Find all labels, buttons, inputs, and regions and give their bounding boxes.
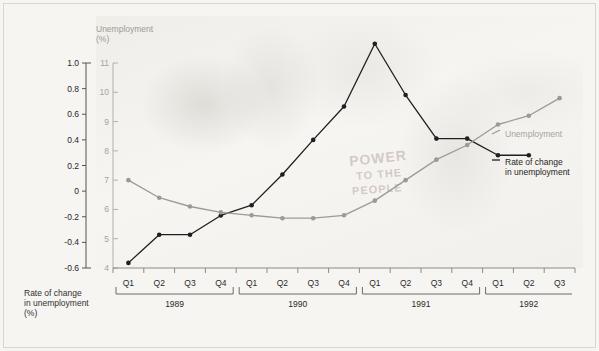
- x-axis-year-label: 1991: [412, 299, 431, 309]
- data-point: [280, 216, 285, 221]
- x-axis-quarter-label: Q3: [431, 278, 443, 288]
- x-axis-quarter-label: Q2: [154, 278, 166, 288]
- data-point: [496, 122, 501, 127]
- x-axis-quarter-label: Q1: [369, 278, 381, 288]
- data-point: [188, 204, 193, 209]
- x-axis-quarter-label: Q4: [462, 278, 474, 288]
- data-point: [219, 210, 224, 215]
- data-point: [157, 195, 162, 200]
- data-point: [249, 213, 254, 218]
- data-point: [434, 157, 439, 162]
- data-point: [496, 153, 501, 158]
- left-axis-tick-label: 0.8: [67, 84, 79, 94]
- data-point: [126, 178, 131, 183]
- left-axis-tick-label: 0.6: [67, 109, 79, 119]
- right-axis-tick-label: 11: [100, 58, 109, 68]
- series-line-rate-of-change: [128, 44, 528, 263]
- x-axis-quarter-label: Q2: [277, 278, 289, 288]
- right-axis-tick-label: 5: [104, 234, 109, 244]
- data-point: [157, 232, 162, 237]
- data-point: [403, 93, 408, 98]
- legend-label-rate-of-change: Rate of change in unemployment: [505, 157, 570, 177]
- data-point: [527, 113, 532, 118]
- data-point: [188, 232, 193, 237]
- x-axis-year-label: 1990: [288, 299, 307, 309]
- data-point: [280, 172, 285, 177]
- data-point: [434, 136, 439, 141]
- right-axis-tick-label: 4: [104, 263, 109, 273]
- x-axis-quarter-label: Q3: [308, 278, 320, 288]
- data-point: [311, 138, 316, 143]
- data-point: [342, 213, 347, 218]
- x-axis-quarter-label: Q2: [523, 278, 535, 288]
- legend-swatch-unemployment: [492, 130, 500, 134]
- right-axis-tick-label: 9: [104, 117, 109, 127]
- left-axis-tick-label: -0.4: [64, 237, 79, 247]
- right-axis-tick-label: 10: [100, 87, 110, 97]
- data-point: [465, 143, 470, 148]
- left-axis-tick-label: -0.6: [64, 263, 79, 273]
- right-axis-tick-label: 7: [104, 175, 109, 185]
- x-axis-quarter-label: Q2: [400, 278, 412, 288]
- data-point: [311, 216, 316, 221]
- data-series-group: [126, 41, 562, 265]
- left-axis-tick-label: 0: [74, 186, 79, 196]
- data-point: [126, 261, 131, 266]
- data-point: [403, 178, 408, 183]
- right-axis-title: Unemployment (%): [96, 24, 153, 44]
- left-axis: 1.00.80.60.40.20-0.2-0.4-0.6: [64, 58, 91, 273]
- right-axis-tick-label: 8: [104, 146, 109, 156]
- left-axis-tick-label: 0.4: [67, 135, 79, 145]
- x-axis: Q1Q2Q3Q4Q1Q2Q3Q4Q1Q2Q3Q4Q1Q2Q31989199019…: [113, 268, 575, 309]
- left-axis-title: Rate of change in unemployment (%): [24, 288, 89, 318]
- x-axis-year-label: 1989: [165, 299, 184, 309]
- left-axis-tick-label: 0.2: [67, 161, 79, 171]
- right-axis-tick-label: 6: [104, 204, 109, 214]
- x-axis-quarter-label: Q4: [338, 278, 350, 288]
- x-axis-quarter-label: Q1: [492, 278, 504, 288]
- left-axis-tick-label: -0.2: [64, 212, 79, 222]
- data-point: [373, 198, 378, 203]
- chart-figure: POWER TO THE PEOPLE 1.00.80.60.40.20-0.2…: [0, 0, 599, 351]
- data-point: [373, 41, 378, 46]
- data-point: [249, 203, 254, 208]
- right-axis: 1110987654: [100, 58, 118, 273]
- data-point: [465, 136, 470, 141]
- data-point: [557, 96, 562, 101]
- x-axis-year-label: 1992: [519, 299, 538, 309]
- x-axis-quarter-label: Q3: [184, 278, 196, 288]
- x-axis-quarter-label: Q3: [554, 278, 566, 288]
- data-point: [342, 104, 347, 109]
- x-axis-quarter-label: Q4: [215, 278, 227, 288]
- left-axis-tick-label: 1.0: [67, 58, 79, 68]
- series-line-unemployment: [128, 98, 559, 218]
- x-axis-quarter-label: Q1: [123, 278, 135, 288]
- x-axis-quarter-label: Q1: [246, 278, 258, 288]
- legend-label-unemployment: Unemployment: [505, 129, 562, 139]
